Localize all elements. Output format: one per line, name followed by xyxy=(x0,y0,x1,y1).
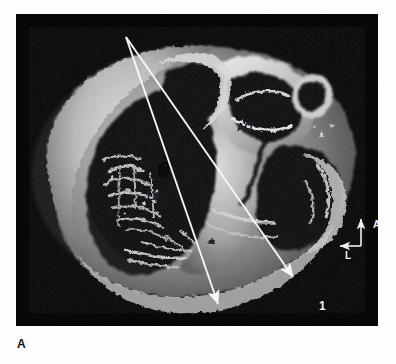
film-grain-overlay xyxy=(16,14,378,326)
label-compass-left: L xyxy=(345,251,351,261)
figure-panel-letter: A xyxy=(17,338,26,350)
label-compass-anterior: A xyxy=(373,220,378,230)
label-aorta: AO xyxy=(237,123,252,133)
label-left-ventricle: LV xyxy=(147,192,159,202)
figure-panel: AO LV 1 2 A L A xyxy=(0,0,396,364)
label-plane-1: 1 xyxy=(319,300,326,312)
specimen-photograph: AO LV 1 2 A L xyxy=(16,14,378,326)
specimen-photo-canvas xyxy=(16,14,378,326)
